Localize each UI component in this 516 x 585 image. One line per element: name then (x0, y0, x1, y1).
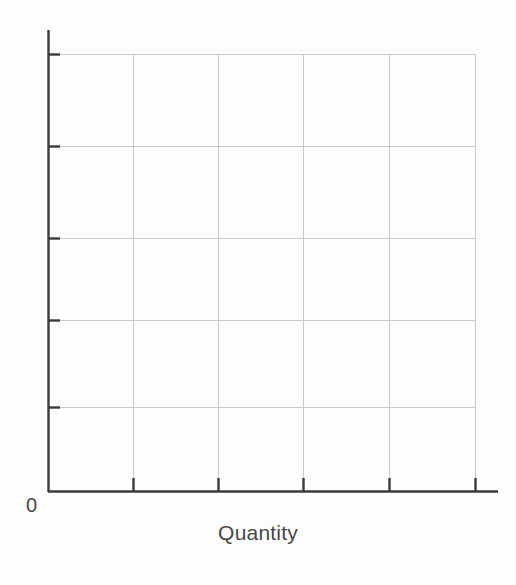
origin-label: 0 (26, 495, 37, 515)
gridlines-vertical (134, 54, 476, 492)
chart-plot-area (0, 0, 516, 585)
chart-container: 0 Quantity (0, 0, 516, 585)
x-axis-title: Quantity (0, 522, 516, 543)
y-axis (49, 30, 61, 492)
x-axis (48, 478, 498, 492)
gridlines-horizontal (48, 55, 476, 408)
